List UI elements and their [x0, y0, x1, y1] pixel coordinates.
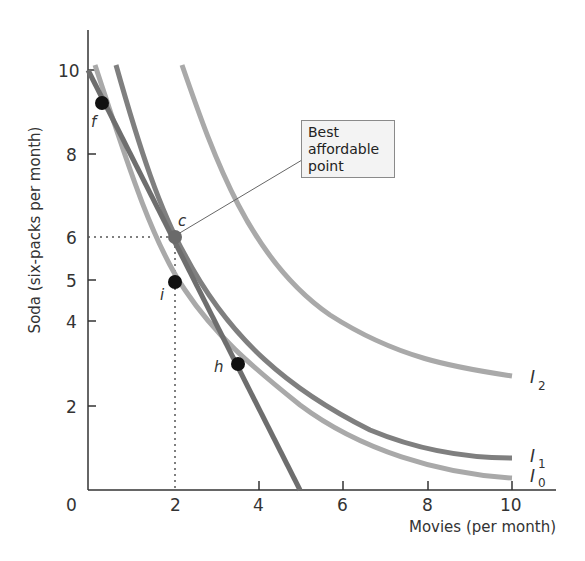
- point-c: [168, 230, 182, 244]
- callout-line-2: affordable: [308, 141, 388, 158]
- indifference-curve-i2: [182, 65, 512, 376]
- callout-line-1: Best: [308, 124, 388, 141]
- x-axis-title: Movies (per month): [409, 518, 556, 536]
- svg-text:I: I: [530, 466, 535, 486]
- y-tick-6: 6: [66, 228, 77, 248]
- svg-text:1: 1: [538, 457, 546, 471]
- callout-line-3: point: [308, 158, 388, 175]
- point-label-c: c: [178, 212, 187, 230]
- point-label-i: i: [160, 286, 165, 304]
- x-tick-10: 10: [500, 495, 522, 515]
- y-axis-title: Soda (six-packs per month): [26, 127, 44, 334]
- consumer-choice-chart: 10 8 6 5 4 2 0 2 4 6 8 10 Movies (per mo…: [0, 0, 585, 561]
- y-tick-8: 8: [66, 145, 77, 165]
- y-tick-5: 5: [66, 271, 77, 291]
- x-tick-8: 8: [422, 495, 433, 515]
- callout-leader-line: [178, 160, 302, 234]
- point-f: [95, 96, 109, 110]
- budget-line: [88, 70, 300, 490]
- point-label-h: h: [214, 358, 224, 376]
- svg-text:2: 2: [538, 379, 546, 393]
- point-label-f: f: [91, 113, 99, 131]
- x-tick-2: 2: [170, 495, 181, 515]
- svg-text:I: I: [530, 446, 535, 466]
- point-i: [168, 275, 182, 289]
- svg-text:I: I: [530, 367, 535, 387]
- point-h: [231, 357, 245, 371]
- x-tick-6: 6: [337, 495, 348, 515]
- x-tick-4: 4: [253, 495, 264, 515]
- y-tick-10: 10: [58, 61, 80, 81]
- curve-label-i2: I 2: [530, 367, 546, 393]
- x-tick-0: 0: [66, 495, 77, 515]
- y-tick-2: 2: [66, 397, 77, 417]
- y-tick-4: 4: [66, 312, 77, 332]
- best-affordable-point-callout: Best affordable point: [301, 120, 395, 178]
- svg-text:0: 0: [538, 476, 546, 490]
